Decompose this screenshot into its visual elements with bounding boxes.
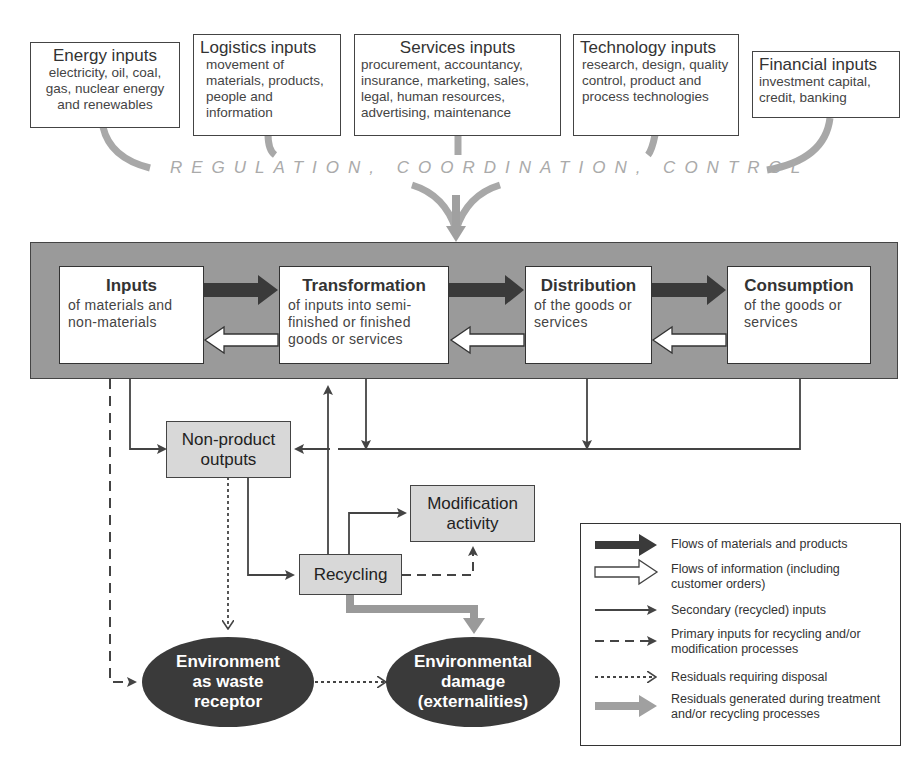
stage-consumption: Consumption of the goods or services [727, 266, 871, 364]
thick-gray-arrow-icon [595, 695, 657, 717]
stage-transformation-desc: of inputs into semi-finished or finished… [288, 297, 440, 348]
stage-consumption-title: Consumption [736, 275, 862, 297]
recycling-node: Recycling [299, 554, 402, 595]
stage-distribution: Distribution of the goods or services [525, 266, 652, 364]
stage-distribution-desc: of the goods or services [534, 297, 643, 331]
legend-label-residuals-disposal: Residuals requiring disposal [671, 670, 827, 685]
stage-inputs-title: Inputs [68, 275, 195, 297]
environment-waste-receptor-label: Environment as waste receptor [142, 652, 314, 712]
legend-label-materials: Flows of materials and products [671, 537, 847, 552]
environment-waste-receptor-node: Environment as waste receptor [142, 637, 314, 727]
modification-activity-label: Modification activity [411, 494, 534, 534]
non-product-outputs-label: Non-product outputs [167, 430, 290, 470]
environmental-damage-label: Environmental damage (externalities) [386, 652, 560, 712]
recycling-label: Recycling [314, 565, 388, 585]
legend-label-residuals-treatment: Residuals generated during treatment and… [671, 692, 891, 722]
modification-activity-node: Modification activity [410, 485, 535, 542]
legend-label-secondary: Secondary (recycled) inputs [671, 603, 826, 618]
stage-transformation: Transformation of inputs into semi-finis… [279, 266, 449, 364]
stage-distribution-title: Distribution [534, 275, 643, 297]
stage-inputs-desc: of materials and non-materials [68, 297, 195, 331]
legend-label-primary: Primary inputs for recycling and/or modi… [671, 627, 881, 657]
stage-consumption-desc: of the goods or services [736, 297, 862, 331]
stage-transformation-title: Transformation [288, 275, 440, 297]
legend-label-information: Flows of information (including customer… [671, 562, 851, 592]
legend: Flows of materials and products Flows of… [580, 523, 901, 746]
stage-inputs: Inputs of materials and non-materials [59, 266, 204, 364]
hollow-arrow-icon [595, 560, 657, 584]
non-product-outputs-node: Non-product outputs [166, 421, 291, 478]
thick-dark-arrow-icon [595, 534, 657, 556]
environmental-damage-node: Environmental damage (externalities) [386, 637, 560, 727]
